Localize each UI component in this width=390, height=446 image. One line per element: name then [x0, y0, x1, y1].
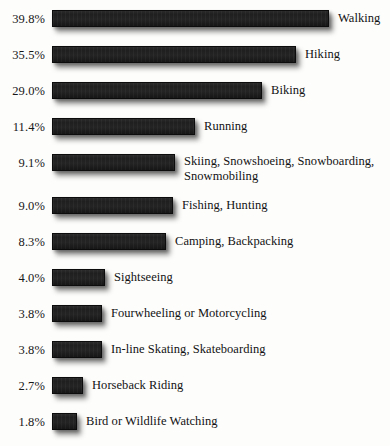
chart-row: 29.0%Biking [0, 82, 390, 118]
bar-value-label: 39.8% [0, 12, 45, 27]
bar-value-label: 29.0% [0, 84, 45, 99]
chart-row: 3.8%Fourwheeling or Motorcycling [0, 305, 390, 341]
bar-category-label: Biking [271, 83, 305, 98]
bar-category-label: Horseback Riding [92, 378, 183, 393]
chart-row: 2.7%Horseback Riding [0, 377, 390, 413]
chart-row: 35.5%Hiking [0, 46, 390, 82]
bar [52, 118, 195, 135]
bar-category-label: In-line Skating, Skateboarding [111, 342, 266, 357]
bar-category-label: Bird or Wildlife Watching [86, 414, 218, 429]
bar-value-label: 2.7% [0, 379, 45, 394]
chart-row: 11.4%Running [0, 118, 390, 154]
bar [52, 82, 262, 99]
bar-value-label: 9.0% [0, 199, 45, 214]
bar-category-label: Sightseeing [114, 270, 173, 285]
bar [52, 46, 296, 63]
chart-row: 9.1%Skiing, Snowshoeing, Snowboarding, S… [0, 154, 390, 190]
bar-category-label: Hiking [305, 47, 340, 62]
bar-value-label: 9.1% [0, 156, 45, 171]
bar-value-label: 35.5% [0, 48, 45, 63]
bar [52, 341, 102, 358]
bar-category-label: Skiing, Snowshoeing, Snowboarding, Snowm… [184, 154, 374, 183]
chart-row: 1.8%Bird or Wildlife Watching [0, 413, 390, 446]
bar [52, 154, 175, 171]
bar [52, 377, 83, 394]
bar-category-label: Fishing, Hunting [182, 198, 268, 213]
horizontal-bar-chart: 39.8%Walking35.5%Hiking29.0%Biking11.4%R… [0, 0, 390, 446]
bar-category-label: Camping, Backpacking [175, 234, 293, 249]
bar-value-label: 4.0% [0, 271, 45, 286]
bar [52, 233, 166, 250]
bar-value-label: 1.8% [0, 415, 45, 430]
bar [52, 10, 329, 27]
bar-category-label: Fourwheeling or Motorcycling [111, 306, 267, 321]
bar-category-label: Running [204, 119, 247, 134]
bar-value-label: 3.8% [0, 307, 45, 322]
chart-row: 3.8%In-line Skating, Skateboarding [0, 341, 390, 377]
chart-row: 8.3%Camping, Backpacking [0, 233, 390, 269]
bar [52, 197, 173, 214]
bar-value-label: 3.8% [0, 343, 45, 358]
bar [52, 305, 102, 322]
bar [52, 269, 105, 286]
chart-row: 4.0%Sightseeing [0, 269, 390, 305]
bar-category-label: Walking [338, 11, 380, 26]
chart-row: 9.0%Fishing, Hunting [0, 197, 390, 233]
chart-row: 39.8%Walking [0, 10, 390, 46]
bar [52, 413, 77, 430]
bar-value-label: 8.3% [0, 235, 45, 250]
bar-value-label: 11.4% [0, 120, 45, 135]
